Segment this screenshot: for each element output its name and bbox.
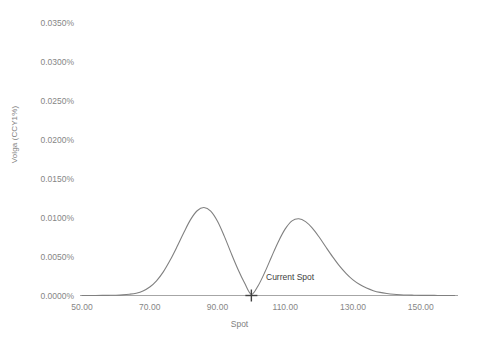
plot-area [0,0,479,343]
x-tick-label: 110.00 [255,302,315,312]
current-spot-annotation-label: Current Spot [266,272,314,282]
volga-chart: Volga (CCY1%) 0.0350% 0.0300% 0.0250% 0.… [0,0,479,343]
x-tick-label: 90.00 [187,302,247,312]
x-axis-title: Spot [0,319,479,329]
x-tick-label: 130.00 [323,302,383,312]
volga-curve [82,208,455,296]
x-tick-label: 50.00 [52,302,112,312]
x-tick-label: 70.00 [120,302,180,312]
x-tick-label: 150.00 [391,302,451,312]
current-spot-marker [245,290,257,302]
